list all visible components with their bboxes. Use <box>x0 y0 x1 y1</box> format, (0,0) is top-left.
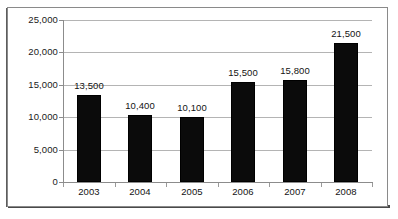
gridline-10000 <box>63 117 372 118</box>
bar-2003 <box>77 95 101 182</box>
y-tick-label: 5,000 <box>34 144 58 155</box>
y-tick-label: 25,000 <box>28 14 58 25</box>
x-tick-mark <box>269 183 270 187</box>
gridline-25000 <box>63 20 372 21</box>
bar-value-label-2005: 10,100 <box>162 102 222 113</box>
y-axis-tick-labels: 05,00010,00015,00020,00025,000 <box>10 0 58 219</box>
x-tick-label-2003: 2003 <box>64 186 114 197</box>
y-tick-label: 20,000 <box>28 46 58 57</box>
gridline-5000 <box>63 150 372 151</box>
x-tick-mark <box>166 183 167 187</box>
y-tick-mark <box>59 150 63 151</box>
y-tick-mark <box>59 20 63 21</box>
bar-2004 <box>128 115 152 182</box>
y-tick-mark <box>59 85 63 86</box>
x-tick-mark <box>218 183 219 187</box>
x-tick-label-2005: 2005 <box>167 186 217 197</box>
y-axis-line <box>63 20 64 183</box>
x-tick-label-2008: 2008 <box>321 186 371 197</box>
x-tick-label-2007: 2007 <box>270 186 320 197</box>
bar-2006 <box>231 82 255 182</box>
bar-2008 <box>334 43 358 182</box>
y-tick-label: 0 <box>53 176 58 187</box>
bar-value-label-2003: 13,500 <box>59 80 119 91</box>
y-tick-mark <box>59 117 63 118</box>
bar-value-label-2006: 15,500 <box>213 67 273 78</box>
bar-value-label-2007: 15,800 <box>265 65 325 76</box>
x-tick-mark <box>321 183 322 187</box>
y-tick-mark <box>59 182 63 183</box>
bar-value-label-2008: 21,500 <box>316 28 376 39</box>
bar-2005 <box>180 117 204 182</box>
x-tick-mark <box>63 183 64 187</box>
x-tick-mark <box>372 183 373 187</box>
x-tick-label-2006: 2006 <box>218 186 268 197</box>
y-tick-mark <box>59 52 63 53</box>
x-tick-mark <box>115 183 116 187</box>
y-tick-label: 15,000 <box>28 79 58 90</box>
y-tick-label: 10,000 <box>28 111 58 122</box>
bar-chart-figure: 05,00010,00015,00020,00025,000 13,500200… <box>0 0 398 219</box>
bar-2007 <box>283 80 307 182</box>
bar-value-label-2004: 10,400 <box>110 100 170 111</box>
gridline-20000 <box>63 52 372 53</box>
x-tick-label-2004: 2004 <box>115 186 165 197</box>
